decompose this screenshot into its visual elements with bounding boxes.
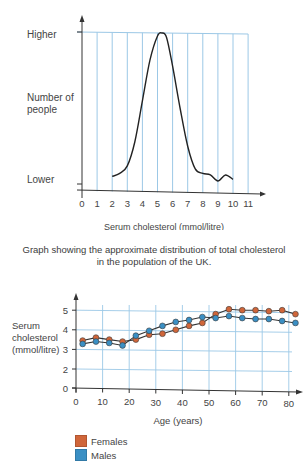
svg-text:0: 0 xyxy=(63,383,68,394)
legend-item-males: Males xyxy=(75,448,127,462)
svg-text:40: 40 xyxy=(177,397,188,408)
svg-text:60: 60 xyxy=(230,397,241,408)
bottom-chart-grid xyxy=(76,305,292,392)
legend-label: Females xyxy=(91,436,127,447)
cholesterol-by-age-chart: 0234501020304050607080 Serum cholesterol… xyxy=(0,0,308,430)
x-axis-label: Age (years) xyxy=(153,415,202,426)
y-axis-label-line2: cholesterol xyxy=(12,332,58,343)
legend-item-females: Females xyxy=(75,434,127,448)
legend-label: Males xyxy=(91,450,116,461)
svg-text:50: 50 xyxy=(204,397,215,408)
y-axis-label-line3: (mmol/litre) xyxy=(12,344,60,355)
svg-text:0: 0 xyxy=(73,396,78,407)
svg-text:5: 5 xyxy=(63,305,68,316)
svg-text:10: 10 xyxy=(97,396,108,407)
legend: Females Males xyxy=(75,434,127,462)
svg-text:3: 3 xyxy=(63,344,68,355)
females-swatch xyxy=(75,435,87,447)
svg-text:30: 30 xyxy=(151,397,162,408)
y-axis-label-line1: Serum xyxy=(12,320,40,331)
svg-text:20: 20 xyxy=(124,396,135,407)
svg-text:70: 70 xyxy=(257,397,268,408)
svg-text:2: 2 xyxy=(63,364,68,375)
svg-text:4: 4 xyxy=(63,324,68,335)
males-swatch xyxy=(75,449,87,461)
svg-text:80: 80 xyxy=(284,398,295,409)
